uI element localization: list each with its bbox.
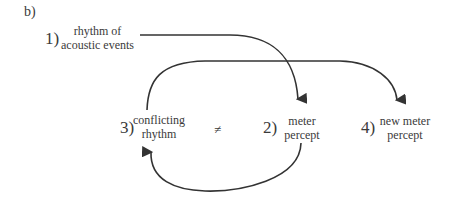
arrows-layer (0, 0, 450, 198)
arrow-2-to-3 (151, 143, 301, 191)
arrow-1-to-2 (140, 35, 298, 99)
arrow-3-to-4 (147, 61, 397, 110)
